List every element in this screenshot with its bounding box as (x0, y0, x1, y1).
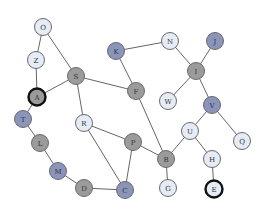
node-label: W (164, 98, 172, 106)
node-j: J (207, 33, 224, 50)
node-label: N (167, 38, 173, 46)
node-label: S (74, 73, 79, 81)
node-m: M (50, 163, 67, 180)
node-s: S (68, 68, 85, 85)
node-label: Q (239, 138, 245, 146)
node-label: I (195, 68, 198, 76)
node-z: Z (28, 52, 45, 69)
node-b: B (158, 151, 175, 168)
node-label: J (213, 38, 217, 46)
node-n: N (162, 33, 179, 50)
node-label: V (208, 102, 215, 110)
node-h: H (204, 151, 221, 168)
node-t: T (15, 111, 32, 128)
node-label: O (40, 24, 46, 32)
node-g: G (160, 180, 177, 197)
node-label: C (122, 187, 127, 195)
node-q: Q (234, 133, 251, 150)
node-e: E (206, 181, 223, 198)
node-label: E (211, 186, 216, 194)
node-f: F (128, 83, 145, 100)
node-label: B (163, 156, 168, 164)
nodes-layer: OZASKNJIFWVTRUQLPBHMDCGE (15, 19, 251, 199)
node-label: M (54, 168, 61, 176)
node-label: D (81, 185, 87, 193)
node-k: K (108, 43, 125, 60)
node-r: R (76, 115, 93, 132)
node-label: P (131, 139, 136, 147)
node-label: H (209, 156, 215, 164)
node-label: U (187, 128, 193, 136)
node-label: K (113, 48, 119, 56)
node-label: A (33, 94, 40, 102)
node-label: R (81, 120, 87, 128)
node-l: L (32, 135, 49, 152)
node-v: V (204, 97, 221, 114)
node-c: C (117, 182, 134, 199)
edge-s-f (76, 76, 136, 91)
node-label: L (38, 140, 43, 148)
node-label: T (21, 116, 26, 124)
edge-r-c (84, 123, 125, 190)
node-o: O (35, 19, 52, 36)
graph-diagram: OZASKNJIFWVTRUQLPBHMDCGE (0, 0, 266, 215)
node-i: I (188, 63, 205, 80)
node-p: P (125, 134, 142, 151)
node-u: U (182, 123, 199, 140)
node-d: D (76, 180, 93, 197)
node-label: G (165, 185, 171, 193)
node-a: A (29, 89, 46, 106)
node-label: Z (34, 57, 39, 65)
node-label: F (134, 88, 139, 96)
node-w: W (160, 93, 177, 110)
